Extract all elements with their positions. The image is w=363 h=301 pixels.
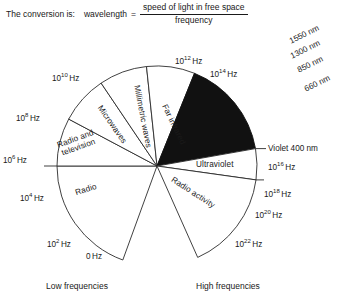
tick-exponent: 16 (277, 161, 284, 167)
tick-mantissa: 10 (52, 74, 61, 83)
tick-unit: Hz (61, 240, 71, 249)
tick-mantissa: 10 (264, 190, 273, 199)
tick-mantissa: 10 (268, 163, 277, 172)
tick-unit: Hz (281, 190, 291, 199)
tick-mantissa: 10 (235, 240, 244, 249)
tick-mantissa: 10 (3, 156, 12, 165)
tick-mantissa: 10 (210, 70, 219, 79)
tick-unit: Hz (252, 240, 262, 249)
tick-exponent: 12 (184, 55, 191, 61)
tick-unit: Hz (92, 252, 102, 261)
tick-exponent: 20 (264, 209, 271, 215)
tick-label-10e18: 1018Hz (264, 190, 291, 199)
tick-label-10e2: 102Hz (47, 240, 71, 249)
tick-unit: Hz (17, 156, 27, 165)
tick-label-10e6: 106Hz (3, 156, 27, 165)
tick-unit: Hz (227, 70, 237, 79)
tick-unit: Hz (285, 163, 295, 172)
annotation-violet-400nm: Violet 400 nm (268, 144, 318, 153)
tick-mantissa: 10 (255, 211, 264, 220)
tick-mantissa: 0 (86, 252, 91, 261)
tick-label-10e14: 1014Hz (210, 70, 237, 79)
sector-radio[interactable] (57, 166, 157, 260)
sector-label-ultraviolet: Ultraviolet (196, 160, 234, 169)
tick-unit: Hz (30, 114, 40, 123)
tick-label-10e12: 1012Hz (175, 57, 202, 66)
caption-high-frequencies: High frequencies (196, 281, 260, 291)
tick-exponent: 22 (244, 238, 251, 244)
tick-mantissa: 10 (175, 57, 184, 66)
tick-exponent: 4 (29, 192, 32, 198)
tick-label-10e16: 1016Hz (268, 163, 295, 172)
tick-mantissa: 10 (20, 194, 29, 203)
tick-label-10e22: 1022Hz (235, 240, 262, 249)
tick-unit: Hz (272, 211, 282, 220)
tick-mantissa: 10 (47, 240, 56, 249)
caption-low-frequencies: Low frequencies (46, 281, 108, 291)
tick-label-10e10: 1010Hz (52, 74, 79, 83)
tick-exponent: 6 (12, 154, 15, 160)
tick-exponent: 2 (56, 238, 59, 244)
tick-label-10e4: 104Hz (20, 194, 44, 203)
tick-exponent: 8 (25, 112, 28, 118)
tick-exponent: 14 (219, 68, 226, 74)
tick-label-0hz: 0Hz (86, 252, 102, 261)
tick-unit: Hz (192, 57, 202, 66)
tick-exponent: 10 (61, 72, 68, 78)
tick-mantissa: 10 (16, 114, 25, 123)
tick-exponent: 18 (273, 188, 280, 194)
tick-label-10e8: 108Hz (16, 114, 40, 123)
tick-label-10e20: 1020Hz (255, 211, 282, 220)
tick-unit: Hz (34, 194, 44, 203)
tick-unit: Hz (69, 74, 79, 83)
